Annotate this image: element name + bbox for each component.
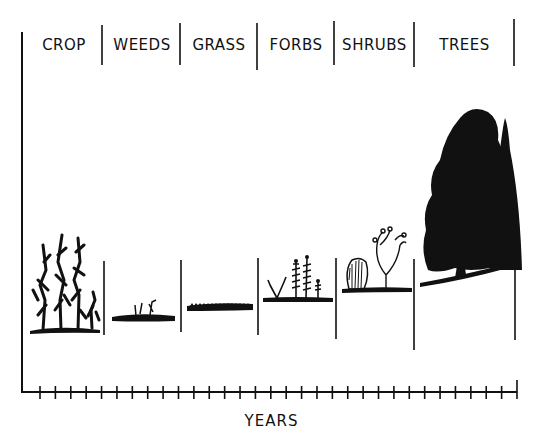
stage-label-shrubs: SHRUBS	[335, 36, 414, 54]
crop-corn-icon	[30, 235, 100, 334]
weeds-icon	[112, 300, 175, 322]
shrubs-icon	[342, 227, 412, 293]
x-axis-ticks	[40, 380, 517, 399]
stage-label-trees: TREES	[415, 36, 514, 54]
stage-label-weeds: WEEDS	[104, 36, 180, 54]
diagram-drawing	[0, 0, 543, 445]
succession-diagram: CROP WEEDS GRASS FORBS SHRUBS TREES YEAR…	[0, 0, 543, 445]
trees-icon	[420, 109, 522, 287]
x-axis-label: YEARS	[0, 412, 543, 430]
forbs-icon	[263, 255, 333, 302]
stage-label-grass: GRASS	[181, 36, 257, 54]
stage-label-forbs: FORBS	[258, 36, 334, 54]
grass-icon	[187, 303, 253, 311]
stage-label-crop: CROP	[26, 36, 102, 54]
